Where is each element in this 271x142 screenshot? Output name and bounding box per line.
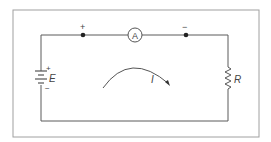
left-terminal-node (81, 33, 86, 38)
current-label: I (151, 74, 154, 85)
circuit-diagram: + E − + − A R I (0, 0, 271, 142)
right-terminal-node (184, 33, 189, 38)
circuit-wires (41, 35, 228, 121)
current-arrow-icon (103, 68, 169, 88)
right-terminal-polarity: − (182, 22, 187, 32)
battery-positive-label: + (46, 64, 51, 73)
resistor-label: R (234, 74, 241, 85)
ammeter-label: A (132, 31, 138, 41)
battery-negative-label: − (45, 84, 50, 93)
battery-label: E (49, 73, 56, 84)
left-terminal-polarity: + (80, 22, 85, 32)
resistor-icon (225, 67, 231, 89)
